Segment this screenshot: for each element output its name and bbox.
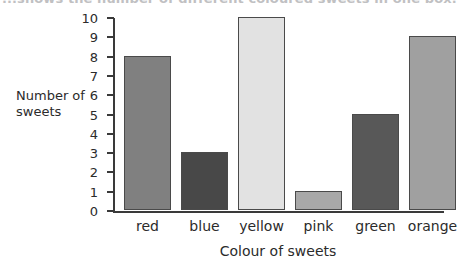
bar-yellow	[238, 17, 285, 210]
y-axis-tick: 7	[107, 75, 114, 77]
x-axis-line	[113, 211, 444, 213]
bar-red	[124, 56, 171, 210]
y-axis-tick: 10	[107, 17, 114, 19]
bar-blue	[181, 152, 228, 210]
x-axis-label-yellow: yellow	[239, 218, 284, 235]
y-axis-tick: 8	[107, 56, 114, 58]
x-axis-label-blue: blue	[189, 218, 219, 235]
y-axis-tick-label: 2	[90, 166, 98, 179]
y-axis-tick-label: 7	[90, 69, 98, 82]
y-axis-tick-label: 10	[81, 12, 98, 25]
bar-green	[352, 114, 399, 211]
bar-orange	[409, 36, 456, 210]
y-axis-tick-label: 6	[90, 89, 98, 102]
x-axis-label-red: red	[136, 218, 159, 235]
y-axis-tick: 4	[107, 133, 114, 135]
y-axis-line	[113, 18, 115, 213]
y-axis-tick: 6	[107, 94, 114, 96]
y-axis-tick: 1	[107, 191, 114, 193]
y-axis-tick: 9	[107, 36, 114, 38]
x-axis-title: Colour of sweets	[113, 243, 443, 260]
y-axis-tick: 0	[107, 210, 114, 212]
y-axis-tick-label: 3	[90, 147, 98, 160]
y-axis-tick-label: 5	[90, 108, 98, 121]
y-axis-tick-label: 4	[90, 127, 98, 140]
y-axis-tick: 2	[107, 171, 114, 173]
bar-chart-figure: Number of sweets 012345678910 redblueyel…	[0, 0, 463, 269]
x-axis-label-green: green	[355, 218, 395, 235]
y-axis-tick: 3	[107, 152, 114, 154]
x-axis-label-pink: pink	[304, 218, 334, 235]
bar-pink	[295, 191, 342, 210]
y-axis-tick-label: 8	[90, 50, 98, 63]
y-axis-tick-label: 0	[90, 205, 98, 218]
plot-area: 012345678910 redblueyellowpinkgreenorang…	[113, 18, 443, 212]
y-axis-tick: 5	[107, 114, 114, 116]
x-axis-label-orange: orange	[408, 218, 457, 235]
y-axis-tick-label: 9	[90, 31, 98, 44]
y-axis-tick-label: 1	[90, 185, 98, 198]
